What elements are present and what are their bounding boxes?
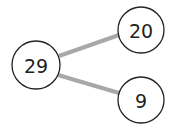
node-child-top-label: 20: [129, 20, 153, 42]
node-child-bottom-label: 9: [135, 90, 147, 112]
edge-root-to-top: [59, 35, 119, 56]
node-child-bottom: 9: [118, 77, 164, 123]
edge-root-to-bottom: [58, 75, 119, 93]
node-root: 29: [12, 41, 60, 89]
node-child-top: 20: [118, 7, 164, 53]
node-root-label: 29: [24, 55, 48, 77]
tree-diagram: 29 20 9: [0, 0, 179, 129]
